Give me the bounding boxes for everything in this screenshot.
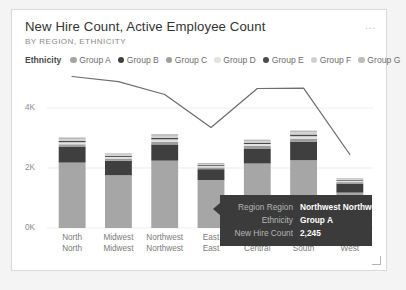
- legend-item-group-a[interactable]: Group A: [70, 55, 111, 65]
- y-axis-tick-label: 4K: [25, 103, 47, 112]
- x-tick-line1: Midwest: [95, 233, 141, 244]
- resize-handle[interactable]: [372, 256, 381, 265]
- chart-tooltip: Region Region Northwest Northwest Ethnic…: [220, 195, 372, 246]
- x-tick-line1: Northwest: [142, 233, 188, 244]
- legend-item-label: Group G: [367, 55, 400, 65]
- legend-item-label: Group E: [272, 55, 304, 65]
- legend-swatch-icon: [358, 57, 365, 64]
- bar-segment[interactable]: [336, 178, 363, 179]
- legend-item-group-f[interactable]: Group F: [311, 55, 352, 65]
- tooltip-value: Northwest Northwest: [300, 202, 372, 212]
- tooltip-value: 2,245: [300, 228, 321, 238]
- bar-segment[interactable]: [198, 166, 225, 167]
- legend-item-group-b[interactable]: Group B: [118, 55, 159, 65]
- x-tick-line2: Midwest: [95, 244, 141, 255]
- bar-segment[interactable]: [59, 163, 86, 228]
- legend-item-group-e[interactable]: Group E: [263, 55, 304, 65]
- legend-swatch-icon: [70, 57, 77, 64]
- bar-segment[interactable]: [336, 184, 363, 193]
- bar-segment[interactable]: [105, 161, 132, 175]
- x-axis-tick-label: MidwestMidwest: [95, 233, 141, 254]
- x-tick-line1: North: [49, 233, 95, 244]
- bar-segment[interactable]: [198, 167, 225, 169]
- tooltip-arrow: [213, 203, 220, 215]
- bar-segment[interactable]: [105, 155, 132, 156]
- bar-segment[interactable]: [105, 156, 132, 157]
- bar-segment[interactable]: [59, 141, 86, 142]
- bar-segment[interactable]: [151, 142, 178, 145]
- legend-item-group-g[interactable]: Group G: [358, 55, 400, 65]
- tooltip-row: Ethnicity Group A: [227, 215, 364, 225]
- bar-segment[interactable]: [244, 149, 271, 164]
- legend-swatch-icon: [166, 57, 173, 64]
- legend-swatch-icon: [118, 57, 125, 64]
- bar-segment[interactable]: [151, 144, 178, 160]
- bar-segment[interactable]: [244, 144, 271, 146]
- tooltip-key: Ethnicity: [227, 215, 293, 225]
- bar-segment[interactable]: [336, 181, 363, 182]
- bar-segment[interactable]: [198, 169, 225, 180]
- bar-segment[interactable]: [59, 139, 86, 141]
- legend-item-group-d[interactable]: Group D: [214, 55, 255, 65]
- legend-item-label: Group B: [127, 55, 159, 65]
- bar-segment[interactable]: [105, 153, 132, 154]
- x-axis-tick-label: NorthNorth: [49, 233, 95, 254]
- legend-title: Ethnicity: [25, 55, 61, 65]
- legend-item-label: Group C: [175, 55, 207, 65]
- bar-segment[interactable]: [290, 136, 317, 138]
- legend-item-label: Group F: [320, 55, 352, 65]
- bar-segment[interactable]: [59, 147, 86, 163]
- bar-segment[interactable]: [59, 144, 86, 147]
- legend-item-label: Group D: [223, 55, 255, 65]
- legend-swatch-icon: [214, 57, 221, 64]
- visual-card: New Hire Count, Active Employee Count BY…: [11, 9, 387, 271]
- bar-segment[interactable]: [59, 137, 86, 139]
- tooltip-row: New Hire Count 2,245: [227, 228, 364, 238]
- more-options-icon[interactable]: …: [365, 21, 377, 29]
- bar-segment[interactable]: [290, 135, 317, 137]
- tooltip-key: New Hire Count: [227, 228, 293, 238]
- bar-segment[interactable]: [290, 142, 317, 161]
- tooltip-row: Region Region Northwest Northwest: [227, 202, 364, 212]
- bar-segment[interactable]: [244, 140, 271, 142]
- bar-segment[interactable]: [151, 139, 178, 141]
- page-title: New Hire Count, Active Employee Count: [25, 19, 265, 34]
- bar-segment[interactable]: [244, 146, 271, 149]
- legend-swatch-icon: [263, 57, 270, 64]
- bar-segment[interactable]: [151, 138, 178, 140]
- bar-segment[interactable]: [290, 139, 317, 142]
- bar-segment[interactable]: [290, 131, 317, 133]
- bar-segment[interactable]: [105, 159, 132, 161]
- legend-swatch-icon: [311, 57, 318, 64]
- bar-segment[interactable]: [336, 182, 363, 184]
- bar-segment[interactable]: [290, 132, 317, 134]
- bar-segment[interactable]: [336, 180, 363, 181]
- card-subtitle: BY REGION, ETHNICITY: [25, 37, 126, 46]
- tooltip-value: Group A: [300, 215, 333, 225]
- bar-segment[interactable]: [151, 161, 178, 228]
- chart-legend: Ethnicity Group AGroup BGroup CGroup DGr…: [25, 53, 406, 67]
- bar-segment[interactable]: [244, 141, 271, 143]
- bar-segment[interactable]: [151, 134, 178, 136]
- bar-segment[interactable]: [336, 179, 363, 180]
- x-tick-line2: North: [49, 244, 95, 255]
- tooltip-key: Region Region: [227, 202, 293, 212]
- bar-segment[interactable]: [105, 175, 132, 228]
- y-axis-tick-label: 2K: [25, 163, 47, 172]
- bar-segment[interactable]: [151, 136, 178, 138]
- bar-segment[interactable]: [244, 143, 271, 144]
- legend-item-group-c[interactable]: Group C: [166, 55, 207, 65]
- bar-segment[interactable]: [105, 157, 132, 159]
- x-axis-tick-label: NorthwestNorthwest: [142, 233, 188, 254]
- bar-segment[interactable]: [59, 142, 86, 144]
- bar-segment[interactable]: [198, 165, 225, 166]
- legend-item-label: Group A: [79, 55, 111, 65]
- legend-items: Group AGroup BGroup CGroup DGroup EGroup…: [70, 55, 406, 65]
- bar-segment[interactable]: [198, 163, 225, 164]
- y-axis-tick-label: 0K: [25, 223, 47, 232]
- x-tick-line2: Northwest: [142, 244, 188, 255]
- bar-segment[interactable]: [198, 164, 225, 165]
- screenshot-root: New Hire Count, Active Employee Count BY…: [0, 0, 406, 290]
